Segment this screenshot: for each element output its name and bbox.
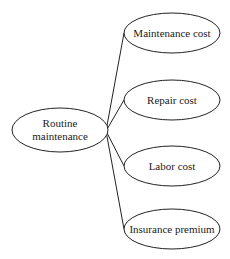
root-label-line2: maintenance (32, 130, 88, 143)
node-maintenance-cost: Maintenance cost (133, 27, 210, 40)
node-repair-cost: Repair cost (147, 94, 197, 107)
connector-line-2 (106, 131, 124, 166)
connector-line-3 (106, 131, 124, 229)
diagram-canvas: Routine maintenance Maintenance cost Rep… (0, 0, 230, 259)
root-node-routine-maintenance: Routine maintenance (32, 117, 88, 143)
connector-lines (106, 33, 124, 229)
node-labor-cost: Labor cost (149, 160, 196, 173)
node-insurance-premium: Insurance premium (129, 223, 214, 236)
root-label-line1: Routine (32, 117, 88, 130)
